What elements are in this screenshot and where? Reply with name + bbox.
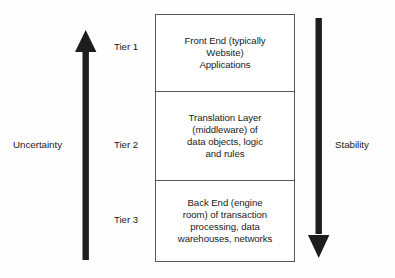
tier-box-3-line-4: warehouses, networks <box>178 233 272 245</box>
tier-box-3-line-3: processing, data <box>178 221 272 233</box>
tier-box-1-line-1: Front End (typically <box>184 35 265 47</box>
tier-label-3: Tier 3 <box>99 214 153 226</box>
tier-box-2-line-2: (middleware) of <box>187 124 263 136</box>
tier-box-2-line-1: Translation Layer <box>187 112 263 124</box>
tier-box-1-line-3: Applications <box>184 59 265 71</box>
arrow-down-icon <box>307 18 331 258</box>
tier-stack: Front End (typically Website) Applicatio… <box>155 14 295 262</box>
tier-box-2-line-4: and rules <box>187 148 263 160</box>
uncertainty-axis-label: Uncertainty <box>13 139 62 151</box>
tier-box-3-line-1: Back End (engine <box>178 197 272 209</box>
tier-box-2-line-3: data objects, logic <box>187 136 263 148</box>
arrow-up-icon <box>74 30 98 260</box>
diagram-canvas: Uncertainty Stability Tier 1 Tier 2 Tier… <box>0 0 395 278</box>
tier-box-1-text: Front End (typically Website) Applicatio… <box>184 35 265 72</box>
tier-box-3-text: Back End (engine room) of transaction pr… <box>178 197 272 246</box>
tier-label-2: Tier 2 <box>99 139 153 151</box>
tier-box-1: Front End (typically Website) Applicatio… <box>156 15 294 91</box>
tier-box-2-text: Translation Layer (middleware) of data o… <box>187 112 263 161</box>
tier-label-1: Tier 1 <box>99 41 153 53</box>
tier-box-1-line-2: Website) <box>184 47 265 59</box>
tier-box-3: Back End (engine room) of transaction pr… <box>156 181 294 261</box>
tier-box-3-line-2: room) of transaction <box>178 209 272 221</box>
tier-box-2: Translation Layer (middleware) of data o… <box>156 91 294 181</box>
stability-axis-label: Stability <box>335 139 369 151</box>
